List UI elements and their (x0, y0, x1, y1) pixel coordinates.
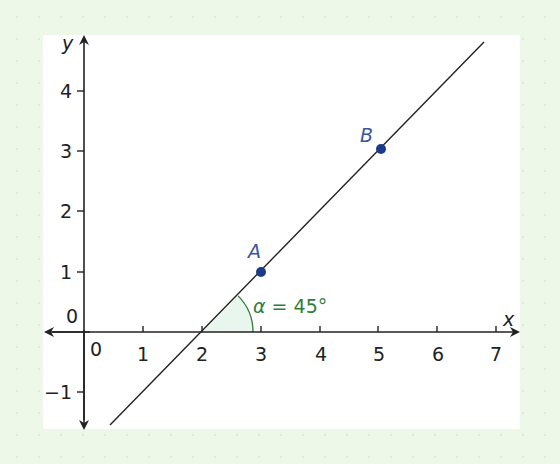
angle-sector (202, 296, 253, 332)
y-tick-label-2: 2 (60, 200, 72, 222)
x-tick-label-7: 7 (490, 343, 502, 365)
x-tick-label-0: 0 (90, 338, 102, 360)
y-tick-label-neg1: −1 (44, 381, 72, 403)
angle-symbol: α (253, 295, 266, 317)
x-ticks (143, 326, 496, 332)
y-axis-label: y (61, 32, 74, 54)
y-tick-label-1: 1 (60, 261, 72, 283)
x-axis-label: x (502, 308, 515, 330)
point-a-label: A (246, 240, 261, 262)
angle-value: = 45° (272, 295, 328, 317)
point-a (256, 267, 266, 277)
y-tick-label-3: 3 (60, 140, 72, 162)
x-tick-label-2: 2 (196, 343, 208, 365)
x-tick-label-4: 4 (315, 343, 327, 365)
x-tick-label-3: 3 (255, 343, 267, 365)
coordinate-graph: 0 1 2 3 4 5 6 7 4 3 2 1 0 −1 x y A B α =… (0, 0, 560, 464)
x-tick-label-6: 6 (432, 343, 444, 365)
y-tick-label-0: 0 (66, 305, 78, 327)
angle-label: α = 45° (253, 295, 327, 317)
x-tick-label-5: 5 (373, 343, 385, 365)
y-tick-label-4: 4 (60, 80, 72, 102)
point-b-label: B (360, 124, 373, 146)
y-ticks (77, 91, 84, 392)
x-tick-label-1: 1 (137, 343, 149, 365)
point-b (376, 144, 386, 154)
line-y-equals-x-minus-2 (110, 42, 484, 425)
